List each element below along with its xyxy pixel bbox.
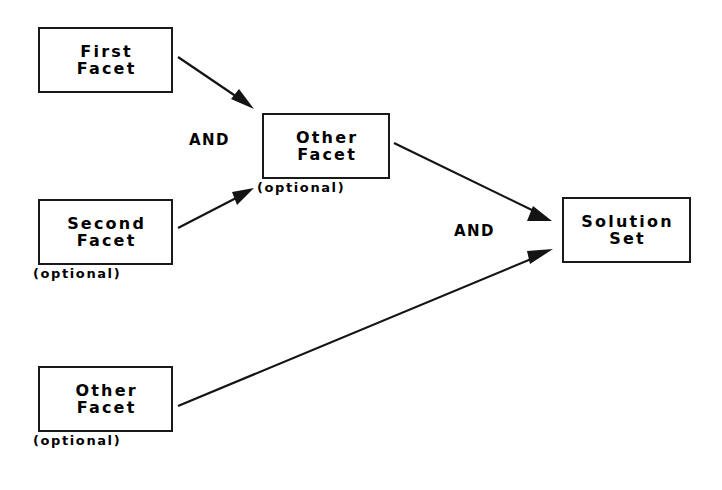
edge-other-facet-to-solution-set bbox=[394, 143, 552, 221]
node-solution-set-line2: Set bbox=[607, 230, 646, 247]
node-other-facet-bottom[interactable]: Other Facet bbox=[38, 366, 173, 432]
facet-diagram-canvas: First Facet Other Facet Second Facet Oth… bbox=[0, 0, 722, 490]
node-other-facet-middle[interactable]: Other Facet bbox=[262, 113, 390, 179]
node-other-facet-middle-line1: Other bbox=[294, 129, 359, 146]
edge-line bbox=[178, 196, 240, 228]
node-other-facet-middle-line2: Facet bbox=[295, 146, 357, 163]
node-first-facet-line2: Facet bbox=[75, 60, 137, 77]
edge-first-facet-to-other-facet bbox=[178, 57, 254, 109]
arrowhead-icon bbox=[231, 89, 254, 109]
caption-other-facet-bottom: (optional) bbox=[33, 433, 121, 448]
arrowhead-icon bbox=[232, 188, 254, 205]
caption-other-facet-middle: (optional) bbox=[257, 180, 345, 195]
operator-label-and-upper: AND bbox=[189, 131, 230, 149]
node-second-facet[interactable]: Second Facet bbox=[38, 199, 173, 265]
node-second-facet-line1: Second bbox=[65, 215, 146, 232]
caption-second-facet: (optional) bbox=[33, 266, 121, 281]
node-first-facet-line1: First bbox=[78, 43, 133, 60]
node-second-facet-line2: Facet bbox=[75, 232, 137, 249]
edge-line bbox=[178, 57, 240, 99]
node-solution-set-line1: Solution bbox=[579, 213, 674, 230]
arrowhead-icon bbox=[527, 206, 552, 221]
edge-second-facet-to-other-facet bbox=[178, 188, 254, 228]
edge-line bbox=[178, 257, 536, 406]
arrowhead-icon bbox=[527, 249, 553, 264]
node-solution-set[interactable]: Solution Set bbox=[562, 197, 691, 263]
node-other-facet-bottom-line1: Other bbox=[73, 382, 138, 399]
edge-other-facet-bottom-to-solution-set bbox=[178, 249, 553, 406]
operator-label-and-lower: AND bbox=[454, 222, 495, 240]
node-other-facet-bottom-line2: Facet bbox=[75, 399, 137, 416]
node-first-facet[interactable]: First Facet bbox=[38, 27, 173, 93]
edge-line bbox=[394, 143, 536, 212]
